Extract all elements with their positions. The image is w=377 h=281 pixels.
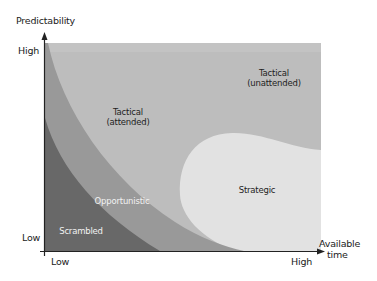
zone-label-tactical-attended: Tactical (attended) xyxy=(106,107,149,127)
x-tick-low: Low xyxy=(51,256,69,267)
zone-label-opportunistic: Opportunistic xyxy=(95,196,150,206)
x-axis-title-line2: time xyxy=(327,249,348,260)
zone-label-strategic: Strategic xyxy=(239,185,276,195)
zone-label-scrambled: Scrambled xyxy=(59,226,103,236)
zone-label-line2: (unattended) xyxy=(247,78,301,88)
zone-label-line1: Tactical xyxy=(106,107,149,117)
zone-label-line1: Scrambled xyxy=(59,226,103,236)
top-band xyxy=(45,43,321,52)
zone-label-line2: (attended) xyxy=(106,117,149,127)
x-axis-title-line1: Available xyxy=(319,238,360,249)
x-tick-high: High xyxy=(291,256,312,267)
zone-label-line1: Opportunistic xyxy=(95,196,150,206)
zone-label-line1: Tactical xyxy=(247,68,301,78)
zone-label-tactical-unattended: Tactical (unattended) xyxy=(247,68,301,88)
zone-label-line1: Strategic xyxy=(239,185,276,195)
y-tick-high: High xyxy=(18,45,39,56)
control-modes-diagram: Predictability High Low Low High Availab… xyxy=(0,0,377,281)
y-axis-arrow-icon xyxy=(42,32,48,40)
y-tick-low: Low xyxy=(22,232,40,243)
y-axis-title: Predictability xyxy=(16,15,75,26)
